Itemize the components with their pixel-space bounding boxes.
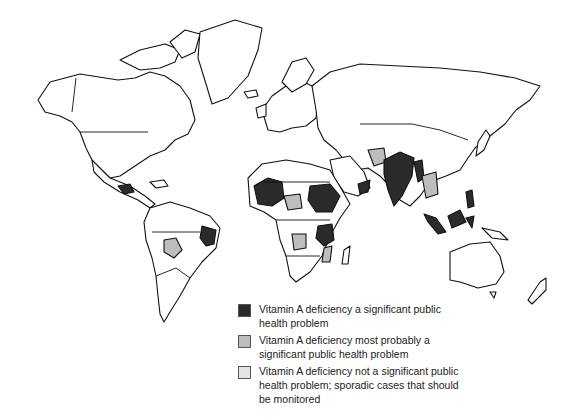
legend-label: Vitamin A deficiency not a significant p… bbox=[259, 364, 469, 406]
legend: Vitamin A deficiency a significant publi… bbox=[238, 302, 538, 409]
land-new-guinea bbox=[482, 228, 508, 240]
land-caribbean bbox=[150, 180, 168, 188]
legend-item-probable: Vitamin A deficiency most probably a sig… bbox=[238, 333, 538, 361]
legend-item-significant: Vitamin A deficiency a significant publi… bbox=[238, 302, 538, 330]
swatch-not-significant-icon bbox=[238, 366, 251, 379]
land-uk bbox=[256, 104, 266, 118]
region-angola-probable bbox=[292, 234, 306, 250]
region-borneo-significant bbox=[448, 210, 466, 228]
region-mozambique-probable bbox=[322, 246, 332, 262]
swatch-significant-icon bbox=[238, 304, 251, 317]
land-africa bbox=[248, 160, 350, 282]
land-iceland bbox=[244, 90, 258, 98]
region-thailand-vietnam-probable bbox=[422, 172, 438, 198]
region-sumatra-significant bbox=[424, 214, 446, 234]
legend-label: Vitamin A deficiency a significant publi… bbox=[259, 302, 469, 330]
legend-label: Vitamin A deficiency most probably a sig… bbox=[259, 333, 469, 361]
land-south-america bbox=[144, 202, 220, 322]
region-sulawesi-significant bbox=[466, 216, 474, 228]
land-new-zealand bbox=[528, 278, 546, 304]
legend-item-not-significant: Vitamin A deficiency not a significant p… bbox=[238, 364, 538, 406]
land-canadian-arctic bbox=[120, 44, 180, 70]
land-australia bbox=[450, 242, 504, 288]
land-north-america bbox=[38, 72, 195, 178]
land-madagascar bbox=[342, 246, 350, 264]
swatch-probable-icon bbox=[238, 335, 251, 348]
region-philippines-significant bbox=[466, 190, 474, 208]
land-tasmania bbox=[490, 292, 496, 298]
